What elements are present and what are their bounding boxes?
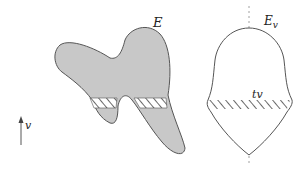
symmetrized-shape-ev <box>207 28 292 155</box>
shape-e-label: E <box>152 15 163 30</box>
symmetrization-diagram: E Ev tv v <box>0 0 304 172</box>
symmetrized-label: Ev <box>263 14 278 30</box>
shape-e <box>55 27 185 153</box>
direction-label-v: v <box>25 119 32 132</box>
direction-arrow-v <box>19 116 24 145</box>
slice-label-tv: tv <box>252 88 263 101</box>
